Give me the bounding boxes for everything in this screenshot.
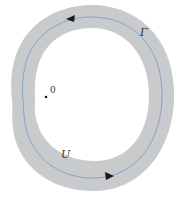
annulus-diagram: Γ U 0 [0, 0, 180, 207]
label-origin: 0 [50, 85, 56, 95]
label-gamma: Γ [139, 26, 148, 39]
label-u: U [61, 148, 71, 161]
